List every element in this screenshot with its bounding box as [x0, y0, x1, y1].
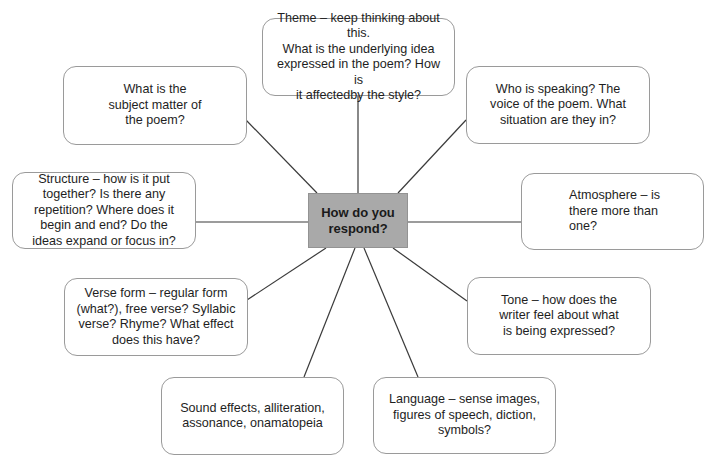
- node-verse-form-text: Verse form – regular form (what?), free …: [77, 286, 236, 348]
- connector-speaker: [398, 120, 466, 193]
- connector-subject: [246, 120, 317, 193]
- connector-language: [364, 248, 418, 377]
- node-sound-effects: Sound effects, alliteration, assonance, …: [161, 377, 344, 455]
- connector-sound: [304, 248, 355, 377]
- node-verse-form: Verse form – regular form (what?), free …: [64, 278, 248, 356]
- node-theme-text: Theme – keep thinking about this. What i…: [273, 11, 444, 104]
- node-tone-text: Tone – how does the writer feel about wh…: [499, 293, 619, 340]
- node-speaker: Who is speaking? The voice of the poem. …: [466, 66, 650, 144]
- node-speaker-text: Who is speaking? The voice of the poem. …: [490, 82, 626, 129]
- node-atmosphere: Atmosphere – is there more than one?: [521, 173, 704, 250]
- connector-tone: [393, 248, 467, 301]
- node-tone: Tone – how does the writer feel about wh…: [467, 277, 651, 355]
- node-sound-effects-text: Sound effects, alliteration, assonance, …: [180, 401, 325, 432]
- node-language-text: Language – sense images, figures of spee…: [389, 392, 540, 439]
- node-subject-matter: What is the subject matter of the poem?: [63, 66, 247, 145]
- node-structure-text: Structure – how is it put together? Is t…: [32, 172, 176, 250]
- node-theme: Theme – keep thinking about this. What i…: [262, 18, 455, 96]
- connector-verse-form: [247, 248, 326, 300]
- central-question: How do you respond?: [308, 193, 408, 248]
- central-question-text: How do you respond?: [321, 205, 395, 237]
- node-structure: Structure – how is it put together? Is t…: [12, 172, 196, 249]
- node-language: Language – sense images, figures of spee…: [373, 377, 556, 454]
- node-subject-matter-text: What is the subject matter of the poem?: [108, 82, 201, 129]
- node-atmosphere-text: Atmosphere – is there more than one?: [569, 188, 660, 235]
